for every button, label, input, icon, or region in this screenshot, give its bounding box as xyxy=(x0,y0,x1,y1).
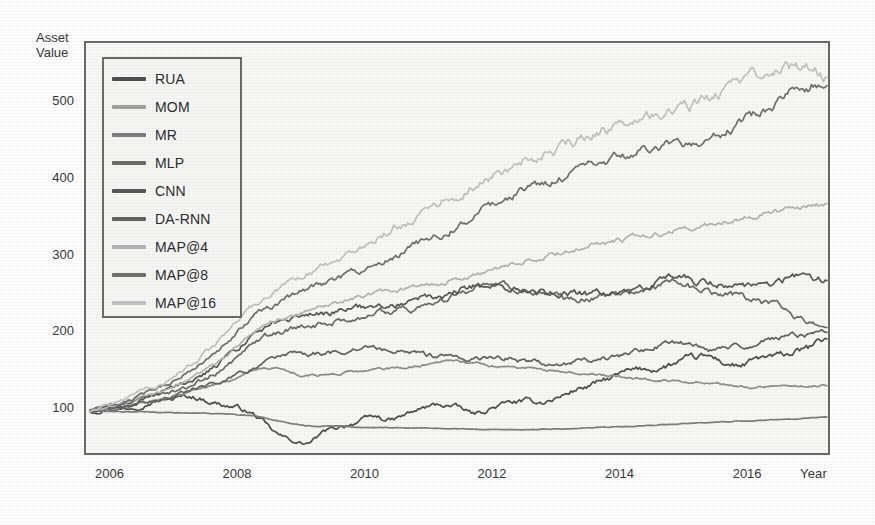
legend-swatch-icon xyxy=(112,105,146,109)
legend-item-cnn: CNN xyxy=(104,177,240,205)
legend-item-label: MAP@4 xyxy=(155,239,208,255)
legend-swatch-icon xyxy=(112,217,146,221)
chart-figure: Asset Value 100200300400500 200620082010… xyxy=(0,0,875,525)
legend-item-mom: MOM xyxy=(104,93,240,121)
x-axis-title: Year xyxy=(800,466,827,481)
x-tick-label: 2012 xyxy=(478,466,507,481)
y-tick-label: 400 xyxy=(26,170,74,185)
legend-item-label: MLP xyxy=(155,155,184,171)
chart-legend: RUAMOMMRMLPCNNDA-RNNMAP@4MAP@8MAP@16 xyxy=(102,57,242,318)
legend-item-label: CNN xyxy=(155,183,186,199)
legend-item-label: RUA xyxy=(155,71,185,87)
legend-swatch-icon xyxy=(112,133,146,137)
series-line-mr xyxy=(90,411,827,430)
y-axis-title-line2: Value xyxy=(36,45,69,60)
x-tick-label: 2016 xyxy=(733,466,762,481)
legend-item-label: MAP@16 xyxy=(155,295,216,311)
legend-item-rua: RUA xyxy=(104,65,240,93)
x-tick-label: 2006 xyxy=(95,466,124,481)
x-tick-label: 2008 xyxy=(223,466,252,481)
legend-item-map-8: MAP@8 xyxy=(104,261,240,289)
y-axis-title-line1: Asset xyxy=(36,30,69,45)
y-tick-label: 100 xyxy=(26,400,74,415)
y-tick-label: 500 xyxy=(26,93,74,108)
legend-swatch-icon xyxy=(112,161,146,165)
legend-item-map-16: MAP@16 xyxy=(104,289,240,317)
x-tick-label: 2014 xyxy=(605,466,634,481)
legend-swatch-icon xyxy=(112,77,146,81)
legend-item-label: MOM xyxy=(155,99,190,115)
y-axis-title: Asset Value xyxy=(36,30,69,60)
legend-swatch-icon xyxy=(112,301,146,305)
y-tick-label: 300 xyxy=(26,247,74,262)
legend-swatch-icon xyxy=(112,273,146,277)
x-tick-label: 2010 xyxy=(350,466,379,481)
legend-item-map-4: MAP@4 xyxy=(104,233,240,261)
y-tick-label: 200 xyxy=(26,323,74,338)
legend-item-mlp: MLP xyxy=(104,149,240,177)
legend-item-da-rnn: DA-RNN xyxy=(104,205,240,233)
legend-item-mr: MR xyxy=(104,121,240,149)
legend-item-label: DA-RNN xyxy=(155,211,211,227)
legend-swatch-icon xyxy=(112,245,146,249)
legend-item-label: MAP@8 xyxy=(155,267,208,283)
legend-swatch-icon xyxy=(112,189,146,193)
legend-item-label: MR xyxy=(155,127,177,143)
